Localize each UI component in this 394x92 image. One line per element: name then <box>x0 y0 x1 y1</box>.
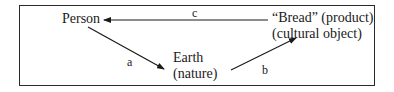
node-person: Person <box>62 11 100 27</box>
node-earth-line1: Earth <box>173 50 203 66</box>
edge-a-label: a <box>127 54 132 70</box>
node-bread-line2: (cultural object) <box>272 26 362 42</box>
node-bread-line1: “Bread” (product) <box>272 10 373 26</box>
edge-a-arrow <box>88 27 164 69</box>
edge-b-label: b <box>262 62 268 78</box>
edge-c-label: c <box>192 5 197 21</box>
node-earth-line2: (nature) <box>173 66 217 82</box>
